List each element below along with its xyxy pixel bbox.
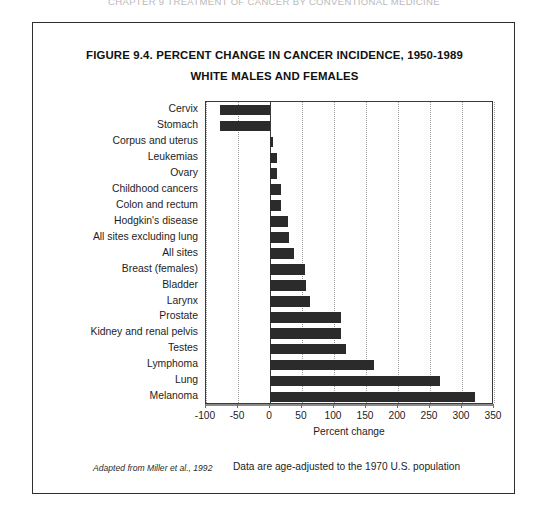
bar [270, 232, 289, 243]
x-tick-label: 200 [389, 410, 406, 421]
category-label: All sites excluding lung [93, 229, 198, 245]
category-label: Larynx [167, 293, 198, 309]
category-label: Breast (females) [122, 261, 198, 277]
category-label: Cervix [169, 101, 198, 117]
x-tick-label: -100 [195, 410, 215, 421]
gridline [302, 102, 303, 403]
x-tick [365, 404, 366, 408]
bar [270, 312, 341, 323]
figure-container: FIGURE 9.4. PERCENT CHANGE IN CANCER INC… [32, 22, 515, 494]
gridline [430, 102, 431, 403]
plot-area [205, 101, 493, 404]
category-label: Lymphoma [147, 356, 198, 372]
bar [270, 280, 306, 291]
x-axis-title: Percent change [205, 426, 493, 437]
bar [220, 121, 270, 132]
category-label: Colon and rectum [116, 197, 198, 213]
x-tick [269, 404, 270, 408]
bar [270, 296, 310, 307]
x-tick-label: 250 [421, 410, 438, 421]
figure-title: FIGURE 9.4. PERCENT CHANGE IN CANCER INC… [33, 49, 516, 61]
gridline [238, 102, 239, 403]
data-note: Data are age-adjusted to the 1970 U.S. p… [233, 461, 460, 472]
figure-subtitle: WHITE MALES AND FEMALES [33, 70, 516, 82]
bar [270, 168, 277, 179]
x-tick-label: -50 [230, 410, 245, 421]
bar [270, 344, 346, 355]
source-note: Adapted from Miller et al., 1992 [93, 463, 212, 473]
gridline [398, 102, 399, 403]
bar [270, 248, 294, 259]
x-tick [333, 404, 334, 408]
x-tick-label: 100 [325, 410, 342, 421]
bar [270, 153, 277, 164]
bar [270, 360, 374, 371]
x-tick-label: 350 [485, 410, 502, 421]
gridline [334, 102, 335, 403]
category-label: Bladder [162, 277, 198, 293]
x-axis-line [205, 404, 493, 406]
gridline [494, 102, 495, 403]
bar [270, 392, 475, 403]
x-tick-label: 50 [295, 410, 306, 421]
bar [270, 200, 281, 211]
x-tick [429, 404, 430, 408]
category-label: Childhood cancers [112, 181, 198, 197]
bar [270, 376, 440, 387]
category-label: Lung [175, 372, 198, 388]
bar [220, 105, 270, 116]
x-tick [237, 404, 238, 408]
bar [270, 137, 273, 148]
gridline [462, 102, 463, 403]
bar [270, 216, 288, 227]
x-tick [493, 404, 494, 408]
x-tick [301, 404, 302, 408]
category-label: Stomach [157, 117, 198, 133]
category-label: Prostate [159, 308, 198, 324]
chart-plot: CervixStomachCorpus and uterusLeukemiasO… [53, 101, 496, 441]
category-label: Testes [168, 340, 198, 356]
x-tick-label: 300 [453, 410, 470, 421]
category-label: Hodgkin's disease [114, 213, 198, 229]
category-label: All sites [162, 245, 198, 261]
category-label: Leukemias [148, 149, 198, 165]
category-label: Melanoma [149, 388, 198, 404]
x-tick-label: 0 [266, 410, 272, 421]
category-label: Ovary [170, 165, 198, 181]
bar [270, 184, 281, 195]
category-label: Kidney and renal pelvis [91, 324, 198, 340]
x-tick [205, 404, 206, 408]
x-tick [397, 404, 398, 408]
bar [270, 328, 341, 339]
category-label: Corpus and uterus [113, 133, 198, 149]
bar [270, 264, 305, 275]
category-axis-labels: CervixStomachCorpus and uterusLeukemiasO… [53, 101, 204, 404]
gridline [206, 102, 207, 403]
running-page-header: CHAPTER 9 TREATMENT OF CANCER BY CONVENT… [0, 0, 548, 7]
x-tick [461, 404, 462, 408]
gridline [366, 102, 367, 403]
x-tick-label: 150 [357, 410, 374, 421]
